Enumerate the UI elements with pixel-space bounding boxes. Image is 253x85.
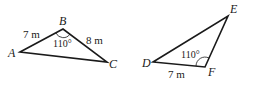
triangle-abc: A B C 7 m 8 m 110° [7,14,118,71]
triangle-def: E D F 7 m 110° [141,2,238,80]
vertex-label-d: D [141,56,151,70]
side-bc-length: 8 m [86,34,103,46]
angle-f-measure: 110° [181,49,200,60]
angle-b-measure: 110° [53,38,72,49]
vertex-label-b: B [59,14,67,28]
side-ab-length: 7 m [23,28,40,40]
vertex-label-f: F [207,65,216,79]
vertex-label-a: A [7,46,16,60]
side-df-length: 7 m [168,68,185,80]
diagram-canvas: A B C 7 m 8 m 110° E D F 7 m 110° [0,0,253,85]
angle-b-arc [56,33,70,38]
vertex-label-c: C [109,57,118,71]
vertex-label-e: E [229,2,238,16]
